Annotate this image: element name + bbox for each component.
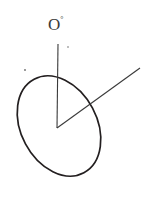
- diagonal-ray: [57, 68, 140, 128]
- diagram-canvas: O°: [0, 0, 144, 208]
- vertex-angle-label: O°: [48, 11, 82, 37]
- vertex-angle-letter: O: [48, 15, 60, 34]
- speck-upper-icon: [67, 46, 69, 48]
- vertical-ray: [57, 44, 58, 128]
- degree-icon: °: [60, 15, 63, 24]
- speck-left-icon: [24, 69, 26, 71]
